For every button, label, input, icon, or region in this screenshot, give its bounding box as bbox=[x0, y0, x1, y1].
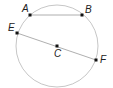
point-a-marker bbox=[29, 14, 32, 17]
label-f: F bbox=[100, 54, 107, 65]
label-a: A bbox=[21, 3, 29, 14]
point-e-marker bbox=[16, 32, 19, 35]
label-c: C bbox=[54, 48, 62, 59]
label-e: E bbox=[8, 22, 15, 33]
point-f-marker bbox=[95, 59, 98, 62]
diagram-canvas: A B E C F bbox=[0, 0, 113, 88]
circle-diagram: A B E C F bbox=[0, 0, 113, 88]
label-b: B bbox=[85, 4, 92, 15]
point-b-marker bbox=[81, 14, 84, 17]
